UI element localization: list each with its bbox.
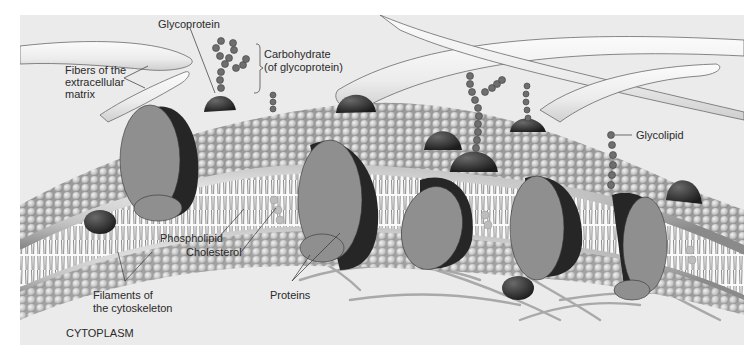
membrane-diagram: Glycoprotein Carbohydrate (of glycoprote… [0,0,744,357]
label-filaments-cytoskeleton: Filaments of the cytoskeleton [93,289,173,315]
label-glycoprotein: Glycoprotein [158,18,220,31]
label-extracellular-fibers: Fibers of the extracellular matrix [65,64,126,100]
protein-1 [120,105,198,221]
label-carbohydrate: Carbohydrate (of glycoprotein) [264,48,343,74]
label-proteins: Proteins [270,289,310,302]
label-cytoplasm: CYTOPLASM [66,327,134,340]
label-cholesterol: Cholesterol [186,246,242,259]
label-phospholipid: Phospholipid [160,232,223,245]
label-glycolipid: Glycolipid [636,129,684,142]
